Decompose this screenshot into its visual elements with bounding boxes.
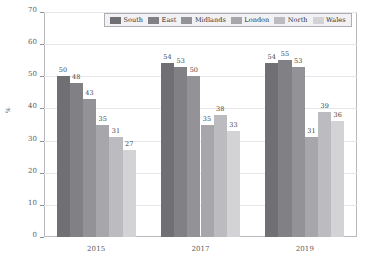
y-axis-tick-label: 30 [28, 135, 37, 143]
bar-north-2019: 39 [318, 112, 331, 237]
y-axis: 010203040506070 [0, 12, 44, 237]
legend-item-wales[interactable]: Wales [313, 16, 346, 24]
bar-value-label: 53 [176, 57, 184, 65]
bar-london-2015: 35 [96, 125, 109, 238]
gridline [44, 44, 357, 45]
plot-area: 504843353127545350353833545553313936 [44, 12, 357, 237]
bar-value-label: 50 [59, 66, 67, 74]
y-axis-tick-label: 40 [28, 102, 37, 110]
y-axis-tick-label: 60 [28, 38, 37, 46]
bar-north-2017: 38 [214, 115, 227, 237]
bar-london-2019: 31 [305, 137, 318, 237]
legend-item-north[interactable]: North [274, 16, 307, 24]
gridline [44, 76, 357, 77]
y-axis-tick-label: 70 [28, 6, 37, 14]
y-axis-tick-label: 10 [28, 199, 37, 207]
bar-east-2019: 55 [278, 60, 291, 237]
bar-value-label: 36 [334, 111, 342, 119]
bar-value-label: 50 [190, 66, 198, 74]
legend-swatch-south [110, 17, 121, 24]
bar-value-label: 38 [216, 105, 224, 113]
bar-value-label: 27 [125, 140, 133, 148]
bar-value-label: 43 [85, 89, 93, 97]
bar-midlands-2019: 53 [292, 67, 305, 237]
bar-midlands-2017: 50 [187, 76, 200, 237]
legend-item-east[interactable]: East [148, 16, 176, 24]
x-axis: 201520172019 [44, 237, 357, 259]
x-axis-tick-label: 2019 [296, 245, 314, 253]
bar-south-2017: 54 [161, 63, 174, 237]
bar-value-label: 35 [99, 115, 107, 123]
legend-item-midlands[interactable]: Midlands [181, 16, 225, 24]
bar-midlands-2015: 43 [83, 99, 96, 237]
legend-item-london[interactable]: London [231, 16, 269, 24]
legend-label: Wales [326, 16, 346, 24]
legend-swatch-london [231, 17, 242, 24]
bar-wales-2017: 33 [227, 131, 240, 237]
legend-label: East [162, 16, 177, 24]
y-axis-tick-label: 20 [28, 167, 37, 175]
bar-north-2015: 31 [109, 137, 122, 237]
bar-value-label: 55 [281, 50, 289, 58]
y-axis-tick-label: 50 [28, 70, 37, 78]
bar-east-2017: 53 [174, 67, 187, 237]
bar-value-label: 53 [294, 57, 302, 65]
legend-swatch-wales [313, 17, 324, 24]
legend-item-south[interactable]: South [110, 16, 143, 24]
x-axis-tick-label: 2017 [191, 245, 209, 253]
bar-south-2019: 54 [265, 63, 278, 237]
bar-london-2017: 35 [201, 125, 214, 238]
bar-value-label: 31 [112, 127, 120, 135]
bar-wales-2015: 27 [123, 150, 136, 237]
bar-value-label: 48 [72, 73, 80, 81]
legend: SouthEastMidlandsLondonNorthWales [104, 13, 352, 27]
bar-chart: % 010203040506070 5048433531275453503538… [0, 0, 371, 262]
legend-label: London [244, 16, 269, 24]
legend-label: South [124, 16, 144, 24]
legend-label: Midlands [195, 16, 226, 24]
bar-value-label: 54 [163, 53, 171, 61]
bar-value-label: 35 [203, 115, 211, 123]
bar-wales-2019: 36 [331, 121, 344, 237]
bar-value-label: 31 [307, 127, 315, 135]
bar-value-label: 33 [229, 121, 237, 129]
legend-swatch-midlands [181, 17, 192, 24]
y-axis-tick-label: 0 [32, 231, 37, 239]
legend-label: North [288, 16, 308, 24]
bar-value-label: 54 [268, 53, 276, 61]
legend-swatch-east [148, 17, 159, 24]
bar-south-2015: 50 [57, 76, 70, 237]
x-axis-tick-label: 2015 [87, 245, 105, 253]
bar-value-label: 39 [320, 102, 328, 110]
legend-swatch-north [274, 17, 285, 24]
bar-east-2015: 48 [70, 83, 83, 237]
